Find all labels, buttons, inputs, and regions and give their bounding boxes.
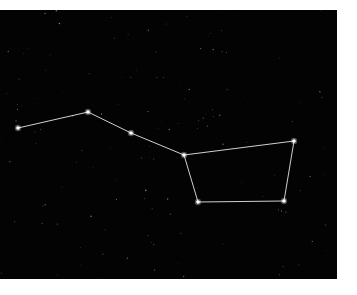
constellation-line — [198, 201, 284, 202]
background-star — [324, 173, 325, 174]
background-star — [147, 235, 148, 236]
background-star — [270, 121, 271, 122]
background-star — [274, 175, 275, 176]
background-star — [207, 126, 208, 127]
background-star — [26, 247, 27, 248]
constellation-star — [196, 200, 200, 204]
background-star — [62, 91, 63, 92]
background-star — [226, 89, 227, 90]
constellation-line — [131, 133, 184, 155]
background-star — [226, 52, 227, 53]
background-star — [156, 77, 157, 78]
background-star — [180, 85, 181, 86]
background-star — [319, 91, 320, 92]
background-star — [278, 209, 279, 210]
background-star — [145, 190, 147, 192]
background-star — [42, 205, 43, 206]
night-sky-image: Big Dipper — [0, 10, 337, 279]
background-star — [263, 196, 264, 197]
background-star — [244, 96, 245, 97]
background-star — [102, 254, 103, 255]
background-star — [27, 48, 28, 49]
background-star — [153, 244, 154, 245]
background-star — [180, 233, 181, 234]
background-star — [4, 76, 5, 77]
background-star — [56, 20, 57, 21]
constellation-star — [292, 139, 296, 143]
background-star — [105, 229, 106, 230]
background-star — [153, 158, 155, 160]
background-star — [76, 161, 77, 162]
background-star — [220, 12, 221, 13]
background-star — [222, 243, 223, 244]
background-star — [301, 163, 302, 164]
background-star — [144, 198, 145, 199]
background-star — [183, 276, 184, 277]
background-star — [189, 89, 190, 90]
background-star — [151, 242, 152, 243]
constellation-line — [284, 141, 294, 201]
constellation-star — [86, 110, 90, 114]
background-star — [81, 150, 82, 151]
background-star — [246, 142, 247, 143]
background-star — [67, 152, 68, 153]
background-star — [17, 109, 18, 110]
constellation-line — [184, 155, 198, 202]
background-star — [141, 157, 142, 158]
background-star — [163, 77, 164, 78]
background-star — [158, 128, 159, 129]
background-star — [212, 49, 214, 51]
background-star — [80, 247, 81, 248]
constellation-star — [16, 126, 20, 130]
constellation-star — [282, 199, 286, 203]
background-star — [14, 221, 16, 223]
background-star — [237, 14, 238, 15]
background-star — [57, 224, 58, 225]
background-star — [90, 267, 91, 268]
background-star — [40, 129, 42, 131]
background-star — [50, 55, 51, 56]
background-star — [127, 257, 128, 258]
background-star — [285, 211, 286, 212]
background-star — [111, 17, 112, 18]
background-star — [8, 51, 9, 52]
background-star — [149, 146, 150, 147]
background-star — [136, 70, 137, 71]
background-star — [110, 147, 111, 148]
background-star — [312, 241, 313, 242]
background-star — [222, 143, 224, 145]
background-star — [45, 204, 46, 205]
background-star — [101, 113, 103, 115]
background-star — [93, 167, 94, 168]
background-star — [59, 23, 61, 25]
background-star — [186, 16, 187, 17]
background-star — [154, 269, 155, 270]
background-star — [0, 141, 1, 142]
background-star — [212, 109, 213, 110]
background-star — [200, 48, 201, 49]
background-star — [241, 181, 242, 182]
background-star — [38, 98, 39, 99]
background-star — [170, 214, 171, 215]
background-star — [205, 113, 206, 114]
background-star — [292, 121, 293, 122]
background-star — [85, 137, 86, 138]
background-star — [21, 105, 22, 106]
background-star — [130, 77, 131, 78]
background-star — [165, 161, 166, 162]
background-star — [326, 250, 327, 251]
background-star — [1, 273, 2, 274]
constellation-line — [18, 112, 88, 128]
background-star — [81, 265, 82, 266]
background-star — [281, 210, 282, 211]
constellation-star — [182, 153, 186, 157]
background-star — [149, 157, 150, 158]
background-star — [161, 121, 162, 122]
background-star — [88, 73, 89, 74]
constellation-star — [129, 131, 133, 135]
background-star — [320, 10, 321, 11]
background-star — [198, 120, 199, 121]
background-star — [219, 115, 220, 116]
background-star — [323, 148, 324, 149]
background-star — [9, 161, 10, 162]
